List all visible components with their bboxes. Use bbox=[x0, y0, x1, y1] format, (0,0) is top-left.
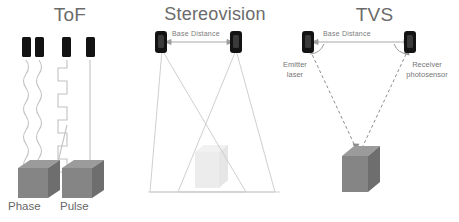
stereo-camera-left bbox=[155, 31, 167, 53]
phase-sine-waves bbox=[24, 60, 42, 171]
tof-graphics bbox=[0, 0, 140, 222]
stereo-base-distance-label: Base Distance bbox=[172, 30, 220, 37]
caption-phase: Phase bbox=[8, 200, 41, 212]
pulse-return-line bbox=[58, 60, 90, 162]
tvs-emitter-label-line2: laser bbox=[267, 70, 323, 80]
panel-tof: ToF bbox=[0, 0, 140, 222]
stereo-target-cube bbox=[195, 145, 228, 188]
figure-canvas: ToF bbox=[0, 0, 459, 222]
tvs-receiver-module bbox=[404, 31, 416, 53]
caption-pulse: Pulse bbox=[60, 200, 89, 212]
stereo-base-line bbox=[165, 40, 233, 45]
tvs-target-cube bbox=[342, 146, 380, 192]
tvs-graphics bbox=[290, 0, 459, 222]
tvs-angle-arcs bbox=[310, 44, 408, 54]
tvs-emitter-label: Emitter laser bbox=[267, 60, 323, 79]
phase-target-cube bbox=[18, 160, 60, 198]
tvs-base-line bbox=[312, 40, 410, 45]
tvs-emitter-module bbox=[302, 31, 314, 53]
pulse-target-cube bbox=[62, 160, 104, 198]
tvs-receiver-label: Receiver photosensor bbox=[396, 60, 458, 79]
tvs-receiver-label-line2: photosensor bbox=[396, 70, 458, 80]
stereo-camera-right bbox=[230, 31, 242, 53]
panel-tvs: TVS bbox=[290, 0, 459, 222]
pulse-emitter-blocks bbox=[62, 37, 95, 57]
tvs-emitter-label-line1: Emitter bbox=[267, 60, 323, 70]
phase-emitter-blocks bbox=[22, 37, 44, 57]
tvs-receiver-label-line1: Receiver bbox=[396, 60, 458, 70]
panel-stereovision: Stereovision bbox=[140, 0, 290, 222]
tvs-base-distance-label: Base Distance bbox=[323, 30, 371, 37]
